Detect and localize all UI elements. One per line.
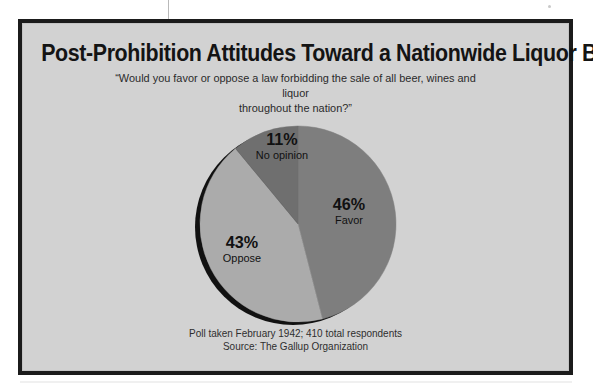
page-edge-artifact — [20, 381, 572, 383]
chart-footnote-line-1: Poll taken February 1942; 410 total resp… — [36, 327, 556, 340]
pie-slice-label-oppose: 43% Oppose — [199, 234, 285, 265]
scan-dot-artifact — [548, 5, 551, 8]
pie-slice-name-oppose: Oppose — [199, 252, 285, 265]
pie-slice-label-favor: 46% Favor — [306, 196, 392, 227]
pie-slice-value-oppose: 43% — [199, 234, 285, 251]
pie-slice-name-no-opinion: No opinion — [236, 149, 327, 162]
pie-slice-value-favor: 46% — [306, 196, 392, 213]
pie-chart: 46% Favor 43% Oppose 11% No opinion — [22, 23, 569, 371]
pie-chart-svg — [22, 23, 577, 379]
pie-slice-value-no-opinion: 11% — [236, 131, 327, 148]
pie-slice-label-no-opinion: 11% No opinion — [236, 131, 327, 162]
chart-footnote: Poll taken February 1942; 410 total resp… — [36, 327, 556, 353]
chart-footnote-line-2: Source: The Gallup Organization — [36, 340, 556, 353]
chart-panel: Post-Prohibition Attitudes Toward a Nati… — [18, 19, 573, 375]
pie-slice-name-favor: Favor — [306, 214, 392, 227]
